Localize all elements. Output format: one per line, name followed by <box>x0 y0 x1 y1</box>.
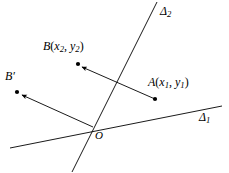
label-delta2: Δ2 <box>160 5 171 19</box>
line-delta1 <box>10 106 222 148</box>
geometry-figure: Δ2 Δ1 B(x2, y2) A(x1, y1) B′ O <box>0 0 229 173</box>
label-point-a: A(x1, y1) <box>148 76 189 90</box>
label-delta1: Δ1 <box>199 111 210 125</box>
label-delta1-subscript: 1 <box>206 115 210 125</box>
label-point-bprime: B′ <box>5 70 15 82</box>
point-dot-b <box>76 62 80 66</box>
line-delta2 <box>72 2 157 172</box>
figure-canvas <box>0 0 229 173</box>
point-dot-bprime <box>15 90 19 94</box>
label-origin-o: O <box>95 130 103 141</box>
label-point-b: B(x2, y2) <box>43 40 84 54</box>
label-delta2-symbol: Δ <box>160 4 167 18</box>
arrow-a-to-b <box>82 67 155 99</box>
label-b-paren-close: ) <box>80 39 84 53</box>
label-delta2-subscript: 2 <box>167 9 171 19</box>
point-dot-a <box>153 97 157 101</box>
arrow-o-to-bprime <box>22 95 93 127</box>
label-a-paren-close: ) <box>185 75 189 89</box>
label-delta1-symbol: Δ <box>199 110 206 124</box>
label-bprime-prime-mark: ′ <box>12 69 15 83</box>
